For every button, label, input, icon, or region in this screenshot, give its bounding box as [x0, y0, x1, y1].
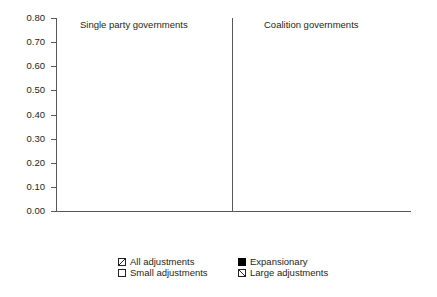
y-axis-tick-label: 0.40 — [27, 110, 46, 120]
legend-label-all-adjustments: All adjustments — [130, 256, 194, 267]
legend-row-2: Small adjustments Large adjustments — [118, 267, 348, 278]
legend-item-large-adjustments: Large adjustments — [238, 267, 348, 278]
y-axis-tick-label: 0.70 — [27, 37, 46, 47]
y-axis-tick — [51, 163, 56, 164]
legend-swatch-expansionary-icon — [238, 258, 246, 266]
y-axis-tick — [51, 18, 56, 19]
y-axis-tick-label: 0.60 — [27, 61, 46, 71]
legend-swatch-large-adjustments-icon — [238, 269, 246, 277]
y-axis-tick-label: 0.50 — [27, 85, 46, 95]
legend-item-expansionary: Expansionary — [238, 256, 348, 267]
legend-label-large-adjustments: Large adjustments — [250, 267, 328, 278]
y-axis-tick-label: 0.00 — [27, 206, 46, 216]
legend-row-1: All adjustments Expansionary — [118, 256, 348, 267]
plot-area — [57, 18, 409, 211]
x-axis-line — [56, 211, 411, 212]
legend-item-all-adjustments: All adjustments — [118, 256, 238, 267]
y-axis-tick — [51, 66, 56, 67]
y-axis-tick — [51, 42, 56, 43]
legend-item-small-adjustments: Small adjustments — [118, 267, 238, 278]
y-axis-tick — [51, 115, 56, 116]
y-axis-tick-label: 0.30 — [27, 134, 46, 144]
y-axis-tick — [51, 187, 56, 188]
legend-label-small-adjustments: Small adjustments — [130, 267, 208, 278]
legend-swatch-small-adjustments-icon — [118, 269, 126, 277]
chart-legend: All adjustments Expansionary Small adjus… — [118, 256, 348, 278]
y-axis-tick-label: 0.20 — [27, 158, 46, 168]
bar-chart: 0.800.700.600.500.400.300.200.100.00 Sin… — [0, 0, 437, 297]
y-axis-tick — [51, 90, 56, 91]
y-axis-tick-label: 0.10 — [27, 182, 46, 192]
legend-swatch-all-adjustments-icon — [118, 258, 126, 266]
y-axis-tick — [51, 139, 56, 140]
legend-label-expansionary: Expansionary — [250, 256, 308, 267]
y-axis-tick-label: 0.80 — [27, 13, 46, 23]
y-axis-tick — [51, 211, 56, 212]
